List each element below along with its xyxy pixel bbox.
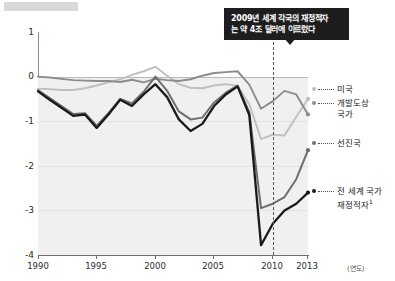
annotation-line-2: 는 약 4조 달러에 이르렀다 — [231, 24, 343, 35]
legend-label-developing-line1: 개발도상 — [337, 98, 369, 108]
x-tick-2013 — [307, 255, 308, 259]
x-tick-2000 — [155, 255, 156, 259]
y-tick-m2: -2 — [8, 162, 34, 171]
legend-label-developing: 개발도상 국가 — [337, 98, 369, 119]
legend-footnote-marker: 1 — [369, 198, 373, 205]
legend-label-usa: 미국 — [337, 84, 353, 95]
series-endpoint-0 — [306, 97, 310, 101]
line-series-group — [38, 32, 308, 255]
x-label-1990: 1990 — [18, 261, 58, 271]
annotation-callout: 2009년 세계 각국의 재정적자 는 약 4조 달러에 이르렀다 — [224, 8, 349, 40]
marker-line-2010 — [273, 32, 274, 255]
legend-leader-world — [318, 191, 334, 192]
legend-label-world-line1: 전 세계 국가 — [337, 186, 382, 196]
legend-label-advanced: 선진국 — [337, 138, 361, 149]
y-tick-m1: -1 — [8, 117, 34, 126]
series-line-2 — [38, 77, 308, 209]
legend-label-world-line2: 재정적자 — [337, 199, 369, 209]
x-tick-2010 — [272, 255, 273, 259]
legend-label-world: 전 세계 국가 재정적자1 — [337, 186, 382, 210]
x-tick-2005 — [213, 255, 214, 259]
y-tick-0: 0 — [8, 72, 34, 81]
series-line-3 — [38, 84, 308, 245]
plot-area — [38, 32, 308, 255]
x-axis-line — [38, 255, 309, 256]
x-label-2010: 2010 — [252, 261, 292, 271]
x-tick-1995 — [96, 255, 97, 259]
legend-leader-usa — [318, 89, 334, 90]
legend-marker-world — [312, 189, 316, 193]
legend-leader-developing — [318, 103, 334, 104]
annotation-line-1: 2009년 세계 각국의 재정적자 — [231, 14, 328, 23]
x-label-2013: 2013 — [287, 261, 327, 271]
legend-marker-usa — [312, 87, 316, 91]
x-label-2005: 2005 — [193, 261, 233, 271]
legend-marker-advanced — [312, 141, 316, 145]
y-tick-m4: -4 — [8, 251, 34, 260]
x-tick-1990 — [38, 255, 39, 259]
legend-leader-advanced — [318, 143, 334, 144]
legend-label-developing-line2: 국가 — [337, 109, 353, 119]
series-endpoint-1 — [306, 112, 310, 116]
annotation-arrow — [284, 38, 296, 45]
x-label-2000: 2000 — [135, 261, 175, 271]
series-endpoint-3 — [306, 190, 310, 194]
x-axis-unit-label: (연도) — [347, 263, 364, 273]
y-tick-1: 1 — [8, 28, 34, 37]
y-tick-m3: -3 — [8, 206, 34, 215]
y-axis-labels: 1 0 -1 -2 -3 -4 — [4, 0, 34, 281]
legend-marker-developing — [312, 101, 316, 105]
x-label-1995: 1995 — [76, 261, 116, 271]
series-endpoint-2 — [306, 148, 310, 152]
